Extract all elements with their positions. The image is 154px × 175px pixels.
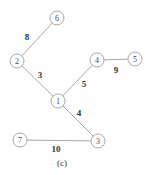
graph-edge-7-3	[27, 140, 91, 141]
edge-weight-label-2-1: 3	[38, 70, 43, 80]
graph-node-1: 1	[51, 94, 65, 108]
graph-node-2: 2	[10, 54, 24, 68]
node-label-4: 4	[95, 56, 99, 65]
node-label-5: 5	[133, 55, 137, 64]
edges-layer	[22, 23, 128, 141]
graph-edge-1-4	[63, 65, 92, 96]
nodes-layer: 1234567	[10, 11, 142, 148]
graph-node-4: 4	[90, 53, 104, 67]
node-label-3: 3	[96, 137, 100, 146]
node-label-1: 1	[56, 97, 60, 106]
graph-node-5: 5	[128, 52, 142, 66]
node-label-6: 6	[55, 14, 59, 23]
graph-node-6: 6	[50, 11, 64, 25]
node-label-7: 7	[18, 136, 22, 145]
graph-edge-4-5	[104, 59, 128, 60]
graph-node-3: 3	[91, 134, 105, 148]
edge-weight-label-4-5: 9	[114, 65, 119, 75]
node-label-2: 2	[15, 57, 19, 66]
edge-weight-label-1-4: 5	[82, 79, 87, 89]
edge-labels-layer: 8359410	[25, 32, 119, 154]
graph-canvas: 1234567 8359410 (c)	[0, 0, 154, 175]
edge-weight-label-7-3: 10	[52, 144, 62, 154]
figure-caption: (c)	[57, 158, 67, 168]
graph-figure: 1234567 8359410 (c)	[0, 0, 154, 175]
edge-weight-label-1-3: 4	[77, 108, 82, 118]
edge-weight-label-2-6: 8	[25, 32, 30, 42]
graph-node-7: 7	[13, 133, 27, 147]
